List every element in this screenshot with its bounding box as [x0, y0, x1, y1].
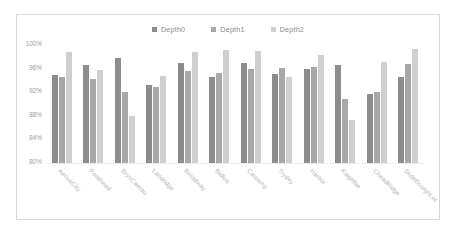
x-label-cell: Kaighfae — [330, 165, 362, 225]
bar-depth1[interactable] — [153, 87, 159, 163]
bar-depth2[interactable] — [349, 120, 355, 163]
bar-depth0[interactable] — [209, 77, 215, 163]
plot-area — [46, 45, 424, 163]
x-label-cell: AeriusCity — [46, 165, 78, 225]
bar-depth1[interactable] — [279, 68, 285, 163]
bar-depth0[interactable] — [52, 75, 58, 164]
x-label-cell: Landridge — [141, 165, 173, 225]
y-axis: 100%96%92%88%84%80% — [17, 43, 44, 165]
bar-depth2[interactable] — [192, 52, 198, 163]
bar-depth2[interactable] — [286, 77, 292, 163]
legend-item-depth2[interactable]: Depth2 — [271, 25, 304, 34]
legend-swatch-depth2 — [271, 27, 276, 32]
bar-depth1[interactable] — [90, 79, 96, 163]
x-axis-baseline — [46, 163, 424, 164]
bar-depth1[interactable] — [342, 99, 348, 163]
bar-group — [267, 45, 299, 163]
bar-depth1[interactable] — [185, 71, 191, 163]
bar-depth1[interactable] — [374, 92, 380, 163]
bar-depth2[interactable] — [97, 70, 103, 163]
bar-group — [78, 45, 110, 163]
bar-groups — [46, 45, 424, 163]
bar-depth0[interactable] — [272, 74, 278, 163]
bar-group — [330, 45, 362, 163]
x-label-cell: SkdeBourghLot — [393, 165, 425, 225]
bar-group — [393, 45, 425, 163]
x-tick-label: Bidloa — [214, 167, 232, 185]
bar-group — [141, 45, 173, 163]
x-label-cell: Bidloa — [204, 165, 236, 225]
y-tick-label: 100% — [26, 40, 42, 47]
chart-frame: Depth0 Depth1 Depth2 100%96%92%88%84%80%… — [16, 14, 440, 220]
x-label-cell: Polsthead — [78, 165, 110, 225]
x-label-cell: BrynCaerau — [109, 165, 141, 225]
y-tick-label: 80% — [29, 158, 42, 165]
bar-depth1[interactable] — [216, 73, 222, 163]
x-tick-label: Kaighfae — [340, 167, 363, 190]
legend-label-depth1: Depth1 — [220, 25, 244, 34]
chart-legend: Depth0 Depth1 Depth2 — [17, 25, 439, 34]
bar-depth0[interactable] — [367, 94, 373, 163]
bar-depth1[interactable] — [248, 69, 254, 163]
x-tick-label: SkdeBourghLot — [403, 167, 439, 203]
x-label-cell: Broadway — [172, 165, 204, 225]
bar-depth1[interactable] — [405, 64, 411, 163]
bar-group — [109, 45, 141, 163]
x-tick-label: Harbor — [309, 167, 328, 186]
y-tick-label: 88% — [29, 110, 42, 117]
legend-swatch-depth1 — [211, 27, 216, 32]
legend-label-depth0: Depth0 — [161, 25, 185, 34]
bar-depth2[interactable] — [129, 116, 135, 163]
legend-label-depth2: Depth2 — [280, 25, 304, 34]
bar-depth2[interactable] — [66, 52, 72, 163]
bar-depth2[interactable] — [160, 76, 166, 163]
bar-depth1[interactable] — [311, 67, 317, 163]
bar-depth0[interactable] — [398, 77, 404, 163]
legend-item-depth1[interactable]: Depth1 — [211, 25, 244, 34]
bar-depth0[interactable] — [304, 69, 310, 163]
x-label-cell: Harbor — [298, 165, 330, 225]
bar-depth2[interactable] — [255, 51, 261, 163]
y-tick-label: 92% — [29, 87, 42, 94]
bar-depth0[interactable] — [83, 65, 89, 163]
bar-depth0[interactable] — [115, 58, 121, 163]
legend-item-depth0[interactable]: Depth0 — [152, 25, 185, 34]
legend-swatch-depth0 — [152, 27, 157, 32]
bar-depth2[interactable] — [318, 55, 324, 163]
y-tick-label: 96% — [29, 63, 42, 70]
bar-group — [172, 45, 204, 163]
bar-depth0[interactable] — [335, 65, 341, 163]
x-tick-label: Trydey — [277, 167, 296, 186]
y-tick-label: 84% — [29, 134, 42, 141]
bar-group — [298, 45, 330, 163]
x-label-cell: CheadRidge — [361, 165, 393, 225]
x-label-cell: Caiswmp — [235, 165, 267, 225]
bar-depth1[interactable] — [122, 92, 128, 163]
x-axis-labels: AeriusCityPolstheadBrynCaerauLandridgeBr… — [46, 165, 424, 225]
bar-group — [361, 45, 393, 163]
bar-group — [235, 45, 267, 163]
bar-depth2[interactable] — [412, 49, 418, 163]
bar-depth0[interactable] — [241, 63, 247, 163]
bar-depth1[interactable] — [59, 77, 65, 163]
bar-group — [46, 45, 78, 163]
bar-depth0[interactable] — [146, 85, 152, 163]
bar-depth2[interactable] — [223, 50, 229, 163]
bar-depth0[interactable] — [178, 63, 184, 163]
bar-group — [204, 45, 236, 163]
bar-depth2[interactable] — [381, 62, 387, 163]
x-label-cell: Trydey — [267, 165, 299, 225]
